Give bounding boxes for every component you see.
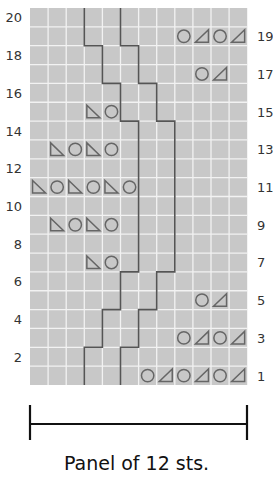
row-label-right: 15 — [257, 105, 273, 120]
row-label-left: 8 — [14, 237, 22, 252]
row-label-left: 20 — [5, 10, 22, 25]
row-label-right: 11 — [257, 180, 273, 195]
row-label-left: 4 — [14, 312, 22, 327]
panel-caption: Panel of 12 sts. — [0, 452, 273, 474]
row-label-right: 1 — [257, 369, 265, 384]
row-label-left: 10 — [5, 199, 22, 214]
row-label-left: 14 — [5, 124, 22, 139]
row-label-right: 7 — [257, 255, 265, 270]
row-label-right: 3 — [257, 331, 265, 346]
row-label-right: 5 — [257, 293, 265, 308]
row-label-left: 18 — [5, 48, 22, 63]
row-label-left: 12 — [5, 161, 22, 176]
knitting-chart: 2468101214161820135791113151719 — [0, 0, 273, 440]
row-label-left: 6 — [14, 274, 22, 289]
row-label-left: 2 — [14, 350, 22, 365]
panel-width-bracket — [30, 405, 247, 440]
row-label-right: 17 — [257, 67, 273, 82]
row-label-right: 9 — [257, 218, 265, 233]
row-label-right: 13 — [257, 142, 273, 157]
row-label-left: 16 — [5, 86, 22, 101]
row-label-right: 19 — [257, 29, 273, 44]
